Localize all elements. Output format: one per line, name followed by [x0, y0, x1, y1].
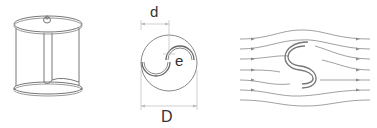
- flow-field-panel: [230, 0, 377, 128]
- rotor-3d-panel: [0, 0, 100, 128]
- label-D: D: [161, 108, 173, 126]
- rotor-cylinder-drawing: [0, 0, 100, 128]
- flow-streamlines-drawing: [230, 0, 377, 128]
- label-d: d: [150, 3, 158, 20]
- cross-section-panel: d e D: [120, 0, 220, 128]
- label-e: e: [175, 52, 183, 69]
